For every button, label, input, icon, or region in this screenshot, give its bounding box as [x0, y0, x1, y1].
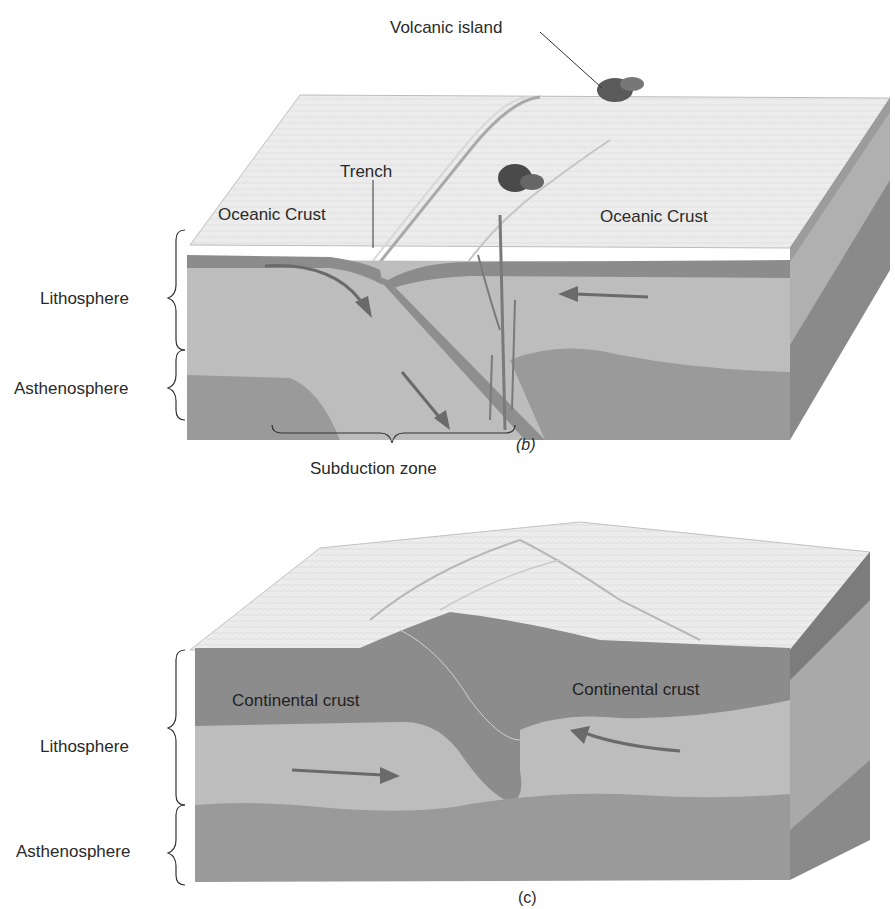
lithosphere-label-b: Lithosphere [40, 290, 129, 307]
panel-b-illustration [0, 0, 895, 909]
asthenosphere-brace-b [168, 350, 185, 420]
asthenosphere-brace-c [168, 805, 185, 885]
asthenosphere-label-c: Asthenosphere [16, 843, 130, 860]
figure: Volcanic island Trench Oceanic Crust Oce… [0, 0, 895, 909]
volcanic-island-label: Volcanic island [390, 19, 502, 36]
panel-b-caption: (b) [516, 437, 536, 453]
asthenosphere-label-b: Asthenosphere [14, 380, 128, 397]
continental-crust-left-label: Continental crust [232, 692, 360, 709]
oceanic-crust-left-label: Oceanic Crust [218, 206, 326, 223]
trench-label: Trench [340, 163, 392, 180]
volcanic-island-leader [540, 32, 602, 88]
lithosphere-brace-c [168, 650, 185, 805]
oceanic-crust-right-label: Oceanic Crust [600, 208, 708, 225]
subduction-zone-label: Subduction zone [310, 460, 437, 477]
lithosphere-label-c: Lithosphere [40, 738, 129, 755]
panel-c-asthenosphere [195, 794, 790, 882]
panel-c-caption: (c) [518, 890, 537, 906]
continental-crust-right-label: Continental crust [572, 681, 700, 698]
lithosphere-brace-b [168, 230, 185, 350]
